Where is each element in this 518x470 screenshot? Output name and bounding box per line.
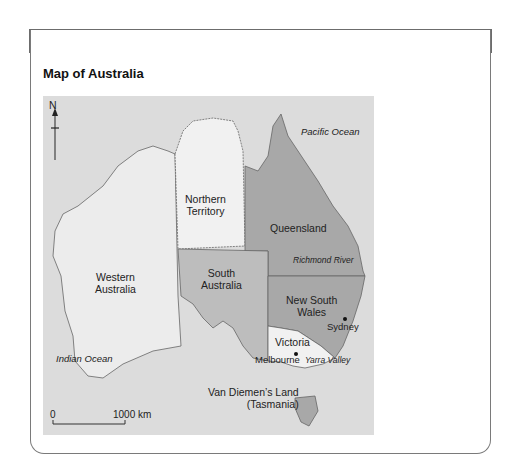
north-label: N xyxy=(49,99,57,111)
label-indian-ocean: Indian Ocean xyxy=(56,353,113,365)
label-melbourne: Melbourne xyxy=(255,354,300,366)
label-tasmania: Van Diemen’s Land(Tasmania) xyxy=(208,386,299,410)
scale-end: 1000 km xyxy=(113,409,151,421)
label-queensland: Queensland xyxy=(270,222,327,234)
region-western-australia xyxy=(53,146,181,378)
label-new-south-wales: New SouthWales xyxy=(286,294,337,318)
scale-start: 0 xyxy=(50,409,56,421)
label-richmond-river: Richmond River xyxy=(293,254,353,266)
region-northern-territory xyxy=(175,118,245,249)
label-victoria: Victoria xyxy=(275,336,310,348)
label-pacific-ocean: Pacific Ocean xyxy=(301,126,360,138)
label-sydney: Sydney xyxy=(327,321,359,333)
label-yarra-valley: Yarra Valley xyxy=(305,354,350,366)
region-south-australia xyxy=(178,249,268,361)
australia-map: N WesternAustralia NorthernTerritory Que… xyxy=(43,96,374,435)
label-south-australia: SouthAustralia xyxy=(201,267,242,291)
label-western-australia: WesternAustralia xyxy=(95,271,136,295)
label-northern-territory: NorthernTerritory xyxy=(185,193,226,217)
north-arrow-icon xyxy=(51,108,59,160)
map-title: Map of Australia xyxy=(43,66,144,81)
